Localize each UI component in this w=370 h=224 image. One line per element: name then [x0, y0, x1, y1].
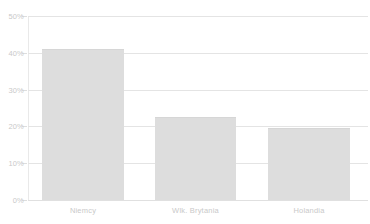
chart-title-cutoff	[0, 0, 370, 7]
x-axis-category-label: Niemcy	[42, 206, 124, 215]
x-axis-category-label: Holandia	[268, 206, 350, 215]
plot-area	[28, 16, 368, 200]
bar-chart: 0%10%20%30%40%50% NiemcyWlk. BrytaniaHol…	[0, 0, 370, 224]
y-axis-tick-label: 40%	[0, 49, 24, 58]
y-axis-tick-label: 10%	[0, 159, 24, 168]
bar-wlk-brytania	[155, 117, 236, 200]
bar-holandia	[268, 128, 350, 200]
x-axis-category-label: Wlk. Brytania	[155, 206, 236, 215]
gridline	[28, 200, 368, 201]
bars-group	[28, 16, 368, 200]
y-axis-tick-label: 0%	[0, 196, 24, 205]
y-axis-tick-label: 50%	[0, 12, 24, 21]
y-axis-tick-label: 30%	[0, 86, 24, 95]
bar-niemcy	[42, 49, 124, 200]
y-axis-tick-label: 20%	[0, 122, 24, 131]
